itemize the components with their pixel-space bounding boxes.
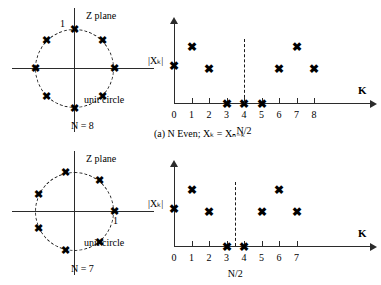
root-marker [98,92,107,101]
x-axis-tick-label: 0 [167,252,181,263]
data-point-marker [204,207,214,217]
panel-caption-a-text: (a) N Even; Xₖ = Xₙ₋ₖ [136,128,245,139]
x-axis-label: K [358,227,367,239]
root-marker [70,104,79,113]
zplane-title: Z plane [86,10,116,21]
magnitude-plot-b: |Xₖ| K 01234567 N/2 [160,147,376,279]
x-axis-tick [209,241,210,247]
x-axis-line [174,246,370,247]
data-point-marker [187,185,197,195]
data-point-marker [239,242,249,252]
root-marker [95,176,104,185]
data-point-marker [274,64,284,74]
y-axis-label: |Xₖ| [148,55,163,66]
x-axis-tick-label: 2 [202,109,216,120]
root-marker [42,92,51,101]
data-point-marker [169,204,179,214]
magnitude-plot-a: |Xₖ| K 012345678 N/2 [160,4,376,136]
data-point-marker [187,42,197,52]
root-marker [95,238,104,247]
nyquist-dashed-line [235,182,236,246]
x-axis-tick-label: 7 [290,252,304,263]
x-axis-tick [174,241,175,247]
data-point-marker [292,207,302,217]
x-axis-tick [314,98,315,104]
zplane-diagram-a: Z plane unit circle N = 8 1 [8,4,158,136]
x-axis-tick [209,98,210,104]
root-marker [110,64,119,73]
y-axis-arrow-icon [170,17,178,24]
root-marker [70,25,79,34]
x-axis-tick-label: 7 [290,109,304,120]
y-axis-arrow-icon [170,160,178,167]
data-point-marker [169,61,179,71]
x-axis-tick-label: 6 [272,109,286,120]
x-axis-tick-label: 5 [255,252,269,263]
x-axis-tick [174,98,175,104]
x-axis-tick [297,98,298,104]
figure-panel-b: Z plane unit circle N = 7 1 |Xₖ| K 01234… [0,143,381,285]
root-marker [61,246,70,255]
zplane-title: Z plane [86,153,116,164]
x-axis-tick-label: 6 [272,252,286,263]
zplane-diagram-b: Z plane unit circle N = 7 1 [8,147,158,279]
data-point-marker [292,42,302,52]
n-value-label: N = 7 [71,263,94,274]
root-marker [98,36,107,45]
x-axis-tick [192,241,193,247]
y-axis-label: |Xₖ| [148,198,163,209]
data-point-marker [257,207,267,217]
root-marker [34,224,43,233]
x-axis-arrow-icon [370,243,377,251]
data-point-marker [257,99,267,109]
figure-panel-a: Z plane unit circle N = 8 1 |Xₖ| K 01234… [0,0,381,142]
root-marker [42,36,51,45]
nyquist-label: N/2 [220,268,250,279]
x-axis-tick-label: 1 [185,252,199,263]
x-axis-tick [279,241,280,247]
data-point-marker [204,64,214,74]
data-point-marker [309,64,319,74]
x-axis-tick-label: 2 [202,252,216,263]
data-point-marker [222,99,232,109]
data-point-marker [222,242,232,252]
x-axis-tick-label: 1 [185,109,199,120]
x-axis-tick [262,241,263,247]
unit-circle-label: unit circle [84,237,124,248]
x-axis-label: K [358,84,367,96]
root-marker [34,190,43,199]
panel-caption-a: (a) N Even; Xₖ = Xₙ₋ₖ [0,128,381,139]
x-axis-tick [297,241,298,247]
root-marker [110,207,119,216]
x-axis-tick [192,98,193,104]
nyquist-dashed-line [244,39,245,103]
root-marker [31,64,40,73]
x-axis-tick-label: 8 [307,109,321,120]
x-axis-tick [279,98,280,104]
x-axis-tick-label: 0 [167,109,181,120]
x-axis-line [174,103,370,104]
reference-point-label: 1 [60,18,65,29]
data-point-marker [274,185,284,195]
root-marker [61,168,70,177]
x-axis-arrow-icon [370,100,377,108]
